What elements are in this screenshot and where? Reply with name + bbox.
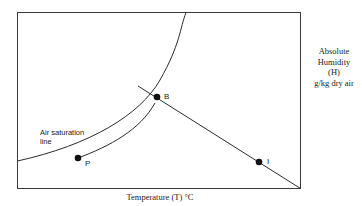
psychrometric-diagram	[0, 0, 362, 206]
saturation-line-label: Air saturation line	[40, 128, 84, 146]
point-i-marker	[256, 159, 263, 166]
point-b-marker	[154, 94, 161, 101]
y-axis-label-line-1: Absolute	[306, 46, 362, 57]
y-axis-label-line-3: (H)	[306, 67, 362, 78]
point-b-label: B	[164, 93, 169, 101]
adiabatic-line	[138, 86, 301, 189]
point-p-label: P	[85, 160, 90, 168]
y-axis-label-line-4: g/kg dry air	[306, 78, 362, 89]
saturation-label-line-2: line	[40, 137, 84, 146]
point-i-label: I	[267, 158, 269, 166]
y-axis-label-line-2: Humidity	[306, 57, 362, 68]
x-axis-label: Temperature (T) °C	[100, 192, 220, 202]
point-p-marker	[75, 155, 82, 162]
y-axis-label: Absolute Humidity (H) g/kg dry air	[306, 46, 362, 88]
saturation-label-line-1: Air saturation	[40, 128, 84, 137]
p-to-b-curve	[78, 103, 155, 158]
